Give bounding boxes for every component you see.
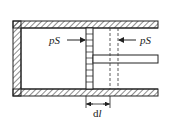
- displacement-label: dl: [93, 107, 102, 119]
- left-force-label: pS: [48, 34, 61, 46]
- piston: [86, 28, 93, 89]
- force-arrow-right: pS: [119, 34, 152, 46]
- piston-cylinder-diagram: pS pS dl: [0, 0, 169, 128]
- cylinder-bottom-wall: [13, 89, 158, 96]
- cylinder-top-wall: [13, 21, 158, 28]
- right-force-label: pS: [139, 34, 152, 46]
- cylinder-end-wall: [13, 21, 21, 96]
- displacement-dimension: dl: [86, 96, 110, 119]
- force-arrow-left: pS: [48, 34, 85, 46]
- piston-rod: [93, 55, 158, 63]
